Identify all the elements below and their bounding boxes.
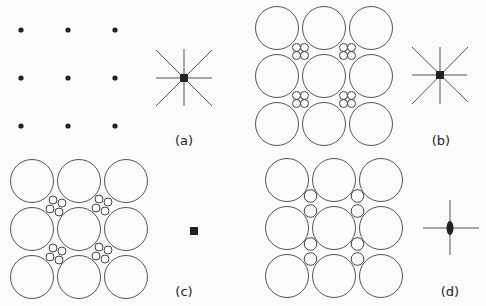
panel-b-label: (b): [432, 133, 450, 148]
panel-b-large-spheres: [256, 7, 393, 146]
panel-a-label: (a): [175, 133, 193, 148]
panel-d-label: (d): [441, 284, 459, 299]
panel-d-symmetry-cross-icon: [423, 200, 479, 255]
panel-c-symmetry-point-icon: [190, 227, 198, 235]
panel-c-small-clusters: [46, 195, 112, 264]
diagram-canvas: [0, 0, 486, 306]
panel-a-lattice: [18, 27, 117, 128]
panel-c-label: (c): [175, 284, 192, 299]
panel-b-symmetry-star-icon: [412, 47, 468, 104]
figure: (a) (b) (c) (d): [0, 0, 486, 306]
panel-c-large-spheres: [11, 160, 148, 299]
panel-a-symmetry-star-icon: [156, 49, 212, 106]
panel-d-large-spheres: [266, 159, 403, 298]
